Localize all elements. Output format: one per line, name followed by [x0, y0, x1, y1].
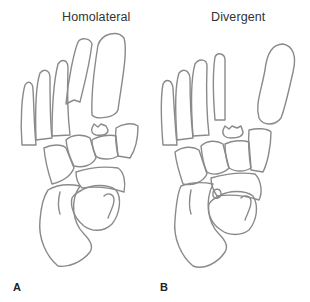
- metatarsal-4: [176, 70, 193, 140]
- metatarsal-1: [92, 34, 126, 118]
- metatarsal-3: [52, 61, 70, 136]
- foot-skeleton-divergent-illustration: [155, 0, 310, 302]
- panel-divergent: Divergent B: [155, 0, 310, 302]
- metatarsal-1: [258, 44, 295, 124]
- metatarsal-5: [21, 82, 36, 145]
- panel-label: A: [13, 281, 21, 293]
- medial-cuneiform: [116, 124, 138, 158]
- metatarsal-3: [192, 60, 209, 136]
- navicular: [76, 167, 125, 192]
- medial-cuneiform: [249, 129, 271, 172]
- panel-label: B: [160, 281, 168, 293]
- metatarsal-2: [66, 39, 92, 104]
- panel-homolateral: Homolateral A: [0, 0, 155, 302]
- cuboid: [44, 145, 74, 184]
- calcaneus-inner: [190, 190, 192, 214]
- metatarsal-4: [36, 70, 52, 140]
- fracture-fragment: [92, 124, 108, 135]
- talus-process: [241, 196, 251, 220]
- calcaneus-inner: [59, 192, 61, 214]
- metatarsal-5: [162, 81, 178, 145]
- talus-process: [104, 194, 114, 218]
- foot-skeleton-homolateral-illustration: [0, 0, 155, 302]
- fracture-fragment: [223, 126, 243, 138]
- metatarsal-2: [214, 54, 226, 120]
